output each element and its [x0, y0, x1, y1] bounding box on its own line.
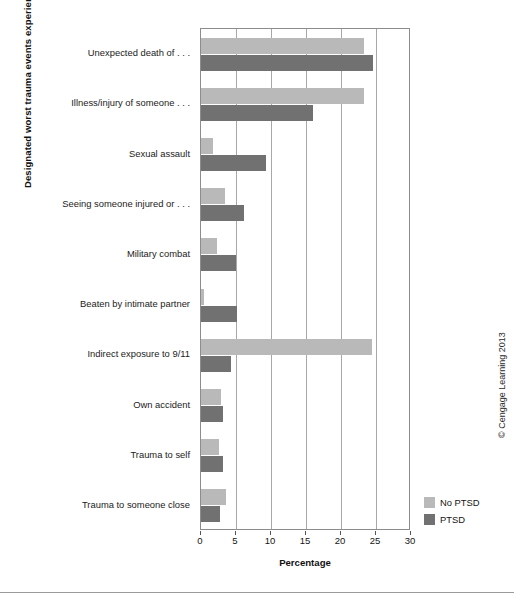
- bar-ptsd: [201, 55, 373, 71]
- legend-item: No PTSD: [424, 495, 504, 510]
- legend-swatch: [424, 497, 435, 508]
- bar-ptsd: [201, 306, 237, 322]
- bar-no-ptsd: [201, 138, 213, 154]
- chart-legend: No PTSDPTSD: [424, 495, 504, 529]
- x-axis-title: Percentage: [200, 557, 410, 568]
- legend-item: PTSD: [424, 512, 504, 527]
- x-tick-label: 30: [395, 535, 425, 546]
- legend-label: No PTSD: [440, 497, 480, 508]
- bar-no-ptsd: [201, 88, 364, 104]
- bar-no-ptsd: [201, 489, 226, 505]
- category-label: Trauma to self: [40, 449, 190, 460]
- category-label: Unexpected death of . . .: [40, 47, 190, 58]
- x-axis-ticks: 051015202530: [200, 531, 412, 547]
- bar-ptsd: [201, 356, 231, 372]
- bar-no-ptsd: [201, 238, 217, 254]
- category-label-list: Unexpected death of . . .Illness/injury …: [40, 28, 194, 530]
- bar-ptsd: [201, 406, 223, 422]
- x-tick-label: 5: [220, 535, 250, 546]
- category-label: Own accident: [40, 399, 190, 410]
- bar-ptsd: [201, 105, 313, 121]
- bar-ptsd: [201, 205, 244, 221]
- x-tick-label: 10: [255, 535, 285, 546]
- category-label: Seeing someone injured or . . .: [40, 198, 190, 209]
- bar-no-ptsd: [201, 38, 364, 54]
- bar-ptsd: [201, 155, 266, 171]
- bar-chart-figure: Designated worst trauma events experienc…: [0, 0, 514, 603]
- x-tick-label: 25: [360, 535, 390, 546]
- x-tick-label: 20: [325, 535, 355, 546]
- bar-no-ptsd: [201, 339, 372, 355]
- gridline: [376, 29, 377, 529]
- category-label: Trauma to someone close: [40, 499, 190, 510]
- legend-label: PTSD: [440, 514, 465, 525]
- category-label: Illness/injury of someone . . .: [40, 97, 190, 108]
- y-axis-title: Designated worst trauma events experienc…: [22, 0, 33, 188]
- category-label: Sexual assault: [40, 148, 190, 159]
- plot-area: [200, 28, 410, 530]
- bar-ptsd: [201, 255, 236, 271]
- x-tick-label: 0: [185, 535, 215, 546]
- bar-ptsd: [201, 506, 220, 522]
- category-label: Beaten by intimate partner: [40, 298, 190, 309]
- copyright-credit: © Cengage Learning 2013: [497, 288, 507, 438]
- bar-ptsd: [201, 456, 223, 472]
- bar-no-ptsd: [201, 188, 225, 204]
- bar-no-ptsd: [201, 389, 221, 405]
- category-label: Indirect exposure to 9/11: [40, 348, 190, 359]
- page-divider: [0, 592, 514, 593]
- bar-no-ptsd: [201, 439, 219, 455]
- gridline: [341, 29, 342, 529]
- x-tick-label: 15: [290, 535, 320, 546]
- category-label: Military combat: [40, 248, 190, 259]
- bar-no-ptsd: [201, 289, 204, 305]
- legend-swatch: [424, 514, 435, 525]
